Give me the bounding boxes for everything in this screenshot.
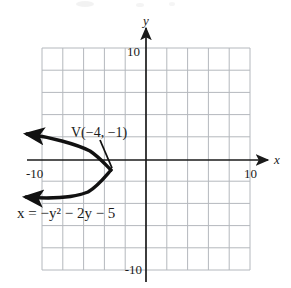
vertex-label: V(−4, −1)	[71, 125, 128, 141]
scan-noise	[76, 1, 175, 7]
graph-svg: y x 10 -10 -10 10 V(−4, −1) x = −y² − 2y…	[0, 0, 291, 288]
x-axis-tick-neg10: -10	[26, 166, 43, 181]
x-axis-tick-10: 10	[244, 166, 257, 181]
equation-label: x = −y² − 2y − 5	[17, 205, 115, 221]
coordinate-graph-figure: y x 10 -10 -10 10 V(−4, −1) x = −y² − 2y…	[0, 0, 291, 288]
x-axis-label: x	[273, 152, 280, 167]
y-axis-tick-neg10: -10	[125, 262, 142, 277]
y-axis-tick-10: 10	[127, 44, 140, 59]
y-axis-label: y	[141, 13, 149, 28]
